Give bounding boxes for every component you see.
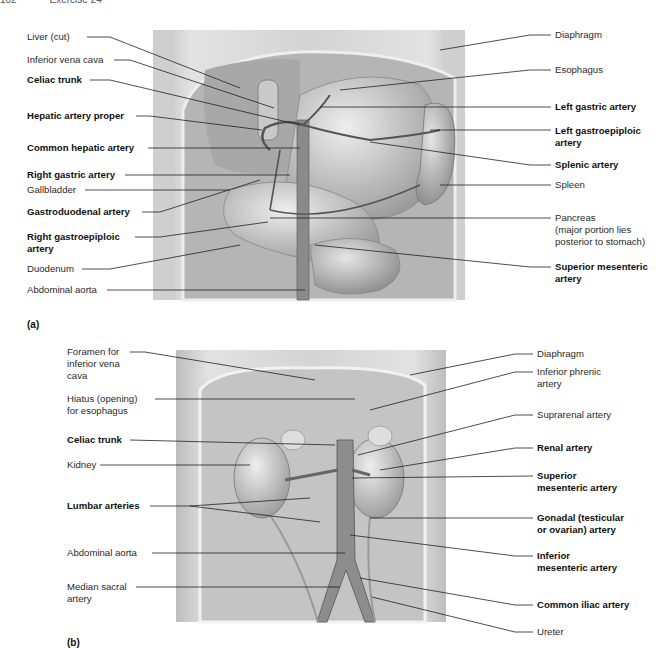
label-common-hepatic-artery: Common hepatic artery [27,142,134,154]
label-hepatic-artery-proper: Hepatic artery proper [27,110,124,122]
label-duodenum: Duodenum [27,263,74,275]
label-superior-mesenteric-artery: Superior mesenteric artery [555,261,648,285]
page-header: 102 Exercise 24 [0,0,102,5]
label-abdominal-aorta: Abdominal aorta [27,284,97,296]
label-celiac-trunk-b: Celiac trunk [67,434,122,446]
label-superior-mesenteric-artery-b: Superior mesenteric artery [537,470,617,494]
label-diaphragm: Diaphragm [555,29,602,41]
label-gastroduodenal-artery: Gastroduodenal artery [27,206,130,218]
label-liver: Liver (cut) [27,31,70,43]
exercise-title: Exercise 24 [49,0,101,5]
label-esophagus: Esophagus [555,64,603,76]
label-left-gastroepiploic-artery: Left gastroepiploic artery [555,125,641,149]
label-pancreas: Pancreas (major portion lies posterior t… [555,212,645,248]
label-celiac-trunk: Celiac trunk [27,74,82,86]
label-kidney: Kidney [67,459,96,471]
label-diaphragm-b: Diaphragm [537,348,584,360]
label-gonadal-artery: Gonadal (testicular or ovarian) artery [537,512,624,536]
label-inferior-vena-cava: Inferior vena cava [27,54,103,66]
label-left-gastric-artery: Left gastric artery [555,101,636,113]
label-lumbar-arteries: Lumbar arteries [67,500,140,512]
label-ureter: Ureter [537,626,564,638]
label-inferior-phrenic-artery: Inferior phrenic artery [537,366,601,390]
label-median-sacral-artery: Median sacral artery [67,581,127,605]
leader-lines-a [82,35,551,290]
label-suprarenal-artery: Suprarenal artery [537,409,611,421]
label-right-gastric-artery: Right gastric artery [27,169,115,181]
figure-a-illustration [153,30,465,300]
label-spleen: Spleen [555,179,585,191]
label-abdominal-aorta-b: Abdominal aorta [67,547,137,559]
label-common-iliac-artery: Common iliac artery [537,599,629,611]
panel-label-b: (b) [67,637,80,648]
figure-b-illustration [176,350,446,622]
label-gallbladder: Gallbladder [27,184,76,196]
label-splenic-artery: Splenic artery [555,159,618,171]
page-number: 102 [0,0,17,5]
label-inferior-mesenteric-artery: Inferior mesenteric artery [537,550,617,574]
label-hiatus-esophagus: Hiatus (opening) for esophagus [67,393,137,417]
label-right-gastroepiploic-artery: Right gastroepiploic artery [27,231,120,255]
label-renal-artery: Renal artery [537,442,592,454]
label-foramen-ivc: Foramen for inferior vena cava [67,346,120,382]
panel-label-a: (a) [27,319,39,330]
leader-lines-b [100,352,533,632]
